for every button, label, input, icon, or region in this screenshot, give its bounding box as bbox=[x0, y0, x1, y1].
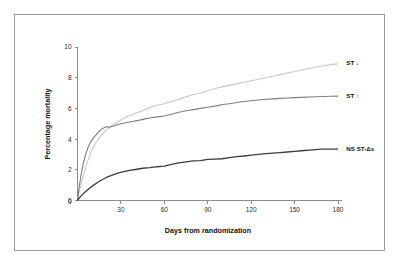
x-tick-label: 30 bbox=[117, 206, 125, 213]
series-labels: ST ↓ST ↑NS ST-Δs bbox=[346, 59, 374, 151]
x-tick-label: 180 bbox=[333, 206, 344, 213]
series-line-0 bbox=[78, 64, 339, 201]
x-tick-label: 150 bbox=[289, 206, 300, 213]
series-line-1 bbox=[78, 96, 339, 200]
x-axis-title: Days from randomization bbox=[165, 226, 251, 235]
series-label-0: ST ↓ bbox=[346, 59, 359, 66]
x-tick-label: 90 bbox=[204, 206, 212, 213]
series-label-1: ST ↑ bbox=[346, 92, 359, 99]
figure-root: 0246810 0306090120150180 ST ↓ST ↑NS ST-Δ… bbox=[0, 0, 401, 266]
y-tick-label: 10 bbox=[64, 43, 72, 50]
y-tick-label: 2 bbox=[68, 166, 72, 173]
y-tick-label: 4 bbox=[68, 136, 72, 143]
y-tick-label: 8 bbox=[68, 74, 72, 81]
series-lines bbox=[78, 64, 339, 201]
x-tick-label: 120 bbox=[246, 206, 257, 213]
y-axis-title: Percentage mortality bbox=[43, 88, 52, 159]
chart-canvas: 0246810 0306090120150180 ST ↓ST ↑NS ST-Δ… bbox=[0, 0, 401, 266]
series-label-2: NS ST-Δs bbox=[346, 145, 374, 152]
y-tick-label: 6 bbox=[68, 105, 72, 112]
x-tick-label: 60 bbox=[161, 206, 169, 213]
y-axis: 0246810 bbox=[64, 43, 77, 204]
series-line-2 bbox=[78, 149, 339, 200]
x-axis: 0306090120150180 bbox=[68, 198, 344, 213]
x-tick-label: 0 bbox=[68, 198, 72, 205]
